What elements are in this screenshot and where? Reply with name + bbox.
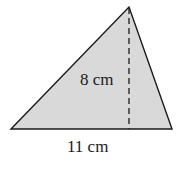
height-label: 8 cm: [80, 70, 114, 89]
triangle-diagram: 8 cm 11 cm: [0, 0, 189, 170]
triangle-shape: [11, 7, 172, 129]
base-label: 11 cm: [67, 137, 108, 156]
